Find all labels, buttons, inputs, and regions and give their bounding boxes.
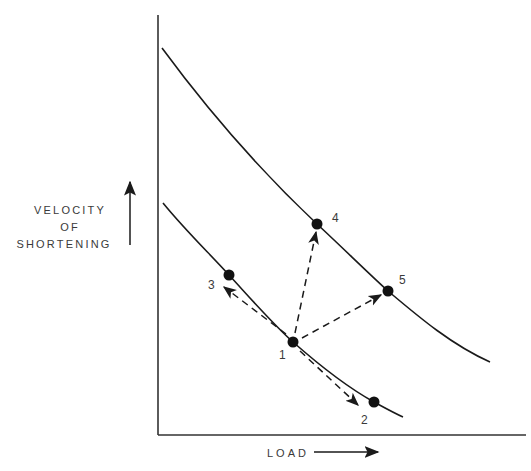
arrow-1-to-5 — [302, 295, 381, 338]
point-4 — [312, 219, 323, 230]
point-5 — [383, 286, 394, 297]
point-3 — [224, 270, 235, 281]
point-5-label: 5 — [399, 273, 406, 287]
point-2 — [369, 397, 380, 408]
force-velocity-diagram: 1 2 3 4 5 VELOCITY OF SHORTENING LOAD — [0, 0, 531, 471]
point-3-label: 3 — [208, 278, 215, 292]
point-2-label: 2 — [361, 413, 368, 427]
arrow-1-to-2 — [300, 351, 358, 405]
point-1-label: 1 — [279, 348, 286, 362]
point-4-label: 4 — [332, 211, 339, 225]
y-axis-label-line-1: VELOCITY — [34, 204, 106, 216]
y-axis-label-line-2: OF — [60, 221, 80, 233]
y-axis-label-line-3: SHORTENING — [16, 238, 111, 250]
point-1 — [288, 337, 299, 348]
lower-curve — [163, 203, 403, 417]
upper-curve — [162, 48, 490, 362]
arrow-1-to-4 — [295, 232, 316, 333]
x-axis-label: LOAD — [267, 447, 309, 459]
